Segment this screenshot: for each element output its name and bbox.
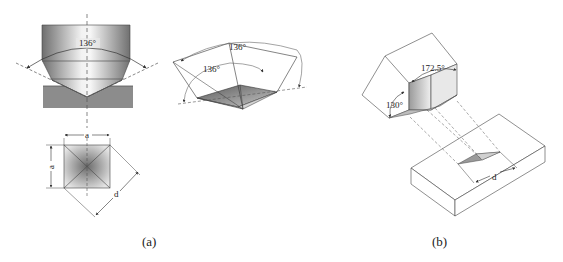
angle-label-130: 130° — [386, 100, 404, 110]
angle-label-top: 136° — [229, 42, 247, 52]
caption-a: (a) — [142, 234, 156, 249]
caption-b: (b) — [432, 234, 447, 249]
specimen-diagonal-label: d — [492, 172, 497, 182]
side-label-top: a — [85, 130, 89, 140]
diagonal-label: d — [114, 189, 119, 199]
angle-label-172-5: 172.5° — [421, 63, 445, 73]
panel-a-side-view: 136° — [16, 14, 158, 128]
panel-a-perspective-view: 136° 136° — [173, 42, 307, 109]
panel-a-indentation-top-view: a a d — [46, 130, 140, 217]
side-label-left: a — [46, 165, 56, 169]
hardness-indenter-figure: 136° 136° 136° a a — [0, 0, 563, 262]
angle-label: 136° — [79, 38, 97, 48]
panel-b-specimen: d — [411, 114, 545, 216]
angle-label-inner: 136° — [203, 64, 221, 74]
